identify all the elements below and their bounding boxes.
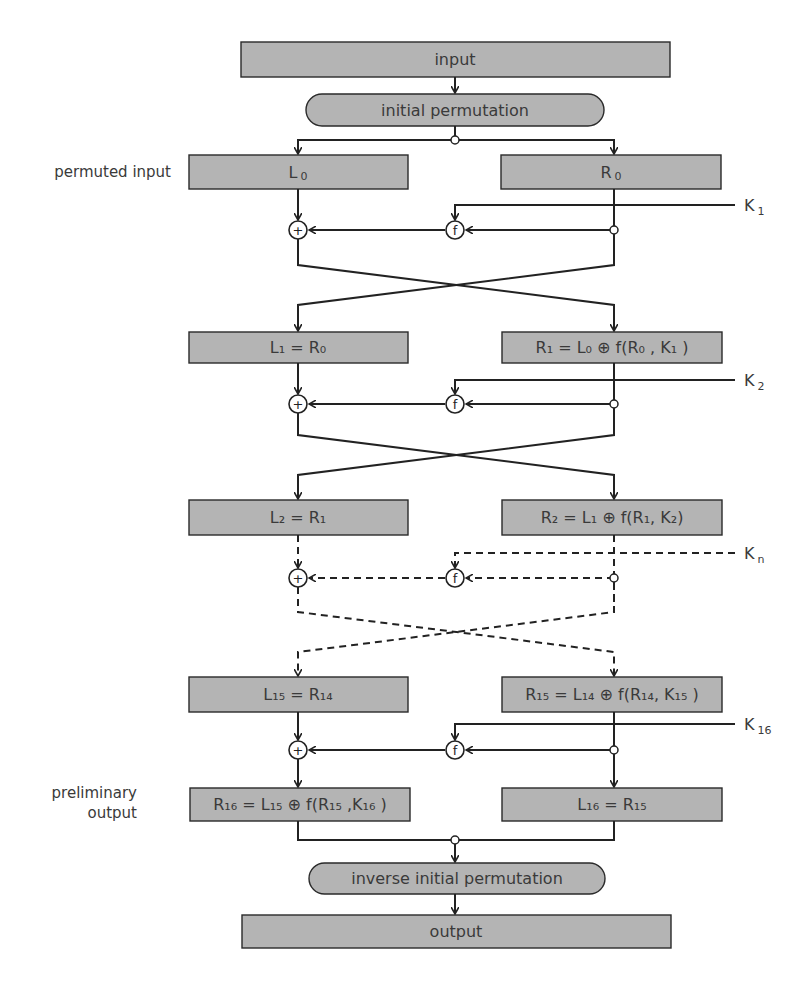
xor-symbol: + [293, 397, 304, 412]
junction-icon [451, 136, 459, 144]
des-diagram: input initial permutation permuted input… [0, 0, 811, 988]
l16-block: L₁₆ = R₁₅ [502, 788, 722, 821]
arrow-icon [298, 140, 455, 154]
l16-label: L₁₆ = R₁₅ [577, 795, 646, 814]
xor-symbol: + [293, 223, 304, 238]
key-line [455, 553, 735, 568]
xor-symbol: + [293, 571, 304, 586]
inverse-initial-permutation-label: inverse initial permutation [351, 869, 563, 888]
f-symbol: f [453, 397, 458, 412]
key-n-label: Kn [744, 544, 765, 566]
f-symbol: f [453, 743, 458, 758]
r15-block: R₁₅ = L₁₄ ⊕ f(R₁₄, K₁₅ ) [502, 677, 722, 712]
round-1: K1 + f [289, 189, 765, 331]
r15-label: R₁₅ = L₁₄ ⊕ f(R₁₄, K₁₅ ) [525, 685, 698, 704]
cross-line [298, 582, 614, 676]
f-symbol: f [453, 223, 458, 238]
r1-label: R₁ = L₀ ⊕ f(R₀ , K₁ ) [536, 338, 689, 357]
l0-block: L0 [189, 155, 408, 189]
junction-icon [610, 226, 618, 234]
r2-label: R₂ = L₁ ⊕ f(R₁, K₂) [541, 508, 684, 527]
preliminary-output-label-line1: preliminary [52, 784, 138, 802]
r0-block: R0 [501, 155, 721, 189]
round-16: K16 + f [289, 712, 772, 787]
key-line [455, 205, 735, 220]
arrow-icon [455, 140, 614, 154]
l2-label: L₂ = R₁ [270, 508, 326, 527]
round-n: Kn + f [289, 535, 765, 676]
input-block: input [241, 42, 670, 77]
cross-line [298, 587, 614, 676]
l1-block: L₁ = R₀ [189, 332, 408, 363]
output-label: output [430, 922, 483, 941]
cross-line [298, 408, 614, 499]
key-16-label: K16 [744, 715, 772, 737]
key-line [455, 380, 735, 394]
key-line [455, 724, 735, 740]
l1-label: L₁ = R₀ [270, 338, 326, 357]
input-label: input [434, 50, 475, 69]
initial-permutation-label: initial permutation [381, 101, 529, 120]
permuted-input-label: permuted input [54, 163, 171, 181]
r1-block: R₁ = L₀ ⊕ f(R₀ , K₁ ) [502, 332, 722, 363]
r16-block: R₁₆ = L₁₅ ⊕ f(R₁₅ ,K₁₆ ) [190, 788, 410, 821]
l15-label: L₁₅ = R₁₄ [263, 685, 332, 704]
junction-icon [610, 400, 618, 408]
preliminary-output-label-line2: output [88, 804, 138, 822]
key-2-label: K2 [744, 371, 765, 393]
f-symbol: f [453, 571, 458, 586]
xor-symbol: + [293, 743, 304, 758]
l15-block: L₁₅ = R₁₄ [189, 677, 408, 712]
output-block: output [242, 915, 671, 948]
junction-icon [610, 574, 618, 582]
cross-line [298, 234, 614, 331]
inverse-initial-permutation-block: inverse initial permutation [309, 863, 605, 894]
r2-block: R₂ = L₁ ⊕ f(R₁, K₂) [502, 500, 722, 535]
junction-icon [451, 836, 459, 844]
key-1-label: K1 [744, 196, 765, 218]
l2-block: L₂ = R₁ [189, 500, 408, 535]
initial-permutation-block: initial permutation [306, 94, 604, 126]
r16-label: R₁₆ = L₁₅ ⊕ f(R₁₅ ,K₁₆ ) [213, 795, 386, 814]
round-2: K2 + f [289, 363, 765, 499]
junction-icon [610, 746, 618, 754]
